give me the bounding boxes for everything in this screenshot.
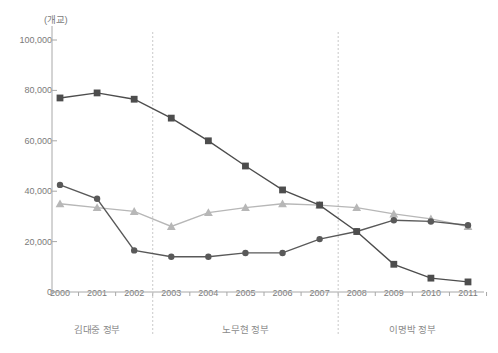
marker-circle (94, 196, 100, 202)
marker-circle (391, 217, 397, 223)
marker-square (168, 115, 175, 122)
marker-square (390, 261, 397, 268)
marker-square (353, 228, 360, 235)
marker-circle (428, 218, 434, 224)
marker-circle (465, 222, 471, 228)
series-line-triangle (60, 204, 468, 227)
marker-square (316, 202, 323, 209)
chart-canvas (0, 0, 498, 353)
marker-square (205, 137, 212, 144)
marker-circle (279, 250, 285, 256)
series-line-circle (60, 185, 468, 257)
marker-square (131, 96, 138, 103)
marker-square (94, 90, 101, 97)
marker-circle (316, 236, 322, 242)
marker-square (279, 187, 286, 194)
marker-circle (168, 254, 174, 260)
marker-circle (242, 250, 248, 256)
marker-circle (57, 182, 63, 188)
marker-triangle (56, 199, 65, 207)
marker-square (428, 275, 435, 282)
line-chart: (개교) 020,00040,00060,00080,000100,000 20… (0, 0, 498, 353)
marker-square (465, 279, 472, 286)
marker-circle (131, 247, 137, 253)
marker-square (57, 95, 64, 102)
marker-circle (205, 254, 211, 260)
marker-square (242, 163, 249, 170)
